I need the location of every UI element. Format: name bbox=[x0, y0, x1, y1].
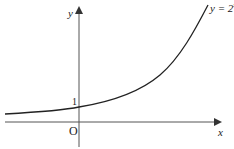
x-axis-label: x bbox=[218, 127, 223, 138]
function-label-exponent: x bbox=[233, 1, 234, 9]
exponential-curve bbox=[5, 5, 208, 114]
y-axis-label: y bbox=[68, 8, 73, 19]
origin-label: O bbox=[69, 125, 78, 137]
y-intercept-label: 1 bbox=[72, 97, 77, 107]
function-label: y = 2x bbox=[210, 2, 234, 14]
function-label-base: y = 2 bbox=[210, 2, 233, 14]
exponential-graph bbox=[0, 0, 234, 149]
